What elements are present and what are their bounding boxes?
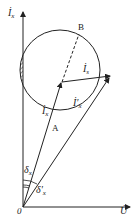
angle-arc-dx2	[23, 185, 30, 186]
label-vec-ix: İx	[41, 105, 49, 118]
label-point-a: A	[52, 123, 59, 133]
label-angle-dx: δx	[24, 164, 33, 177]
phasor-diagram: İx B İs İx İ′x A δx δ′x 0 U̇	[0, 0, 135, 215]
vector-is	[62, 76, 110, 82]
label-angle-dxp: δ′x	[36, 184, 47, 197]
label-vec-is: İs	[82, 63, 89, 76]
label-origin: 0	[17, 206, 22, 215]
label-point-b: B	[78, 22, 84, 32]
angle-arc-dx	[23, 187, 29, 188]
dashed-line-b	[62, 34, 79, 82]
label-y-axis: İx	[7, 7, 15, 20]
label-x-axis: U̇	[120, 205, 128, 215]
